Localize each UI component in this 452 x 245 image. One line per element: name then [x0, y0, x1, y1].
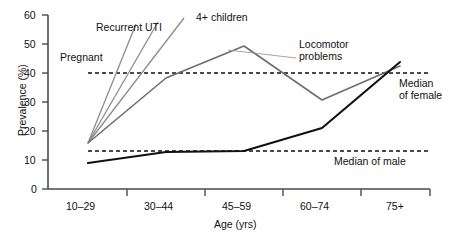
y-tick-label-10: 10 [24, 154, 36, 166]
annotation-median-of-male: Median of male [334, 156, 406, 168]
x-tick-label-75-plus: 75+ [386, 200, 404, 212]
series-line-locomotor-problems [88, 46, 400, 143]
prevalence-by-age-chart: Prevalence (%) 60 50 40 30 20 10 0 10–29… [0, 0, 452, 245]
annotation-median-female-line2: of female [399, 89, 442, 101]
x-axis-title: Age (yrs) [214, 218, 257, 230]
annotation-median-female-line1: Median [399, 77, 442, 89]
annotation-locomotor-problems: Locomotor problems [299, 38, 349, 62]
series-line-4-plus-children [88, 18, 184, 143]
x-tick-label-30-44: 30–44 [144, 200, 173, 212]
annotation-recurrent-uti: Recurrent UTI [96, 22, 162, 34]
annotation-leaders [228, 50, 296, 58]
annotation-median-of-female: Median of female [399, 77, 442, 101]
y-tick-label-0: 0 [31, 183, 37, 195]
y-tick-label-40: 40 [24, 67, 36, 79]
x-tick-label-45-59: 45–59 [222, 200, 251, 212]
y-tick-label-30: 30 [24, 96, 36, 108]
series-line-pregnant [88, 24, 136, 143]
y-tick-label-60: 60 [24, 9, 36, 21]
y-tick-label-50: 50 [24, 38, 36, 50]
annotation-pregnant: Pregnant [60, 52, 103, 64]
annotation-locomotor-line2: problems [299, 50, 349, 62]
annotation-4-plus-children: 4+ children [196, 12, 248, 24]
series-line-male-prevalence [88, 62, 400, 163]
x-tick-label-10-29: 10–29 [66, 200, 95, 212]
annotation-locomotor-line1: Locomotor [299, 38, 349, 50]
series-line-recurrent-uti [88, 22, 158, 143]
x-tick-marks [127, 189, 430, 196]
y-tick-label-20: 20 [24, 125, 36, 137]
x-tick-label-60-74: 60–74 [300, 200, 329, 212]
y-tick-marks [42, 15, 48, 189]
